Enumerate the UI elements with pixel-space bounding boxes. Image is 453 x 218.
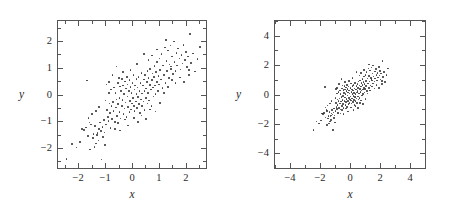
scatter-panel-right: y x −4−2024−4−2024 bbox=[226, 0, 453, 218]
minor-tick-y bbox=[58, 135, 61, 136]
data-point bbox=[167, 50, 169, 52]
data-point bbox=[83, 129, 85, 131]
data-point bbox=[183, 44, 185, 46]
data-point bbox=[352, 101, 354, 103]
minor-tick-x bbox=[335, 165, 336, 168]
data-point bbox=[341, 109, 343, 111]
major-tick-y bbox=[201, 68, 206, 69]
minor-tick-x bbox=[145, 21, 146, 24]
data-point bbox=[131, 92, 133, 94]
data-point bbox=[109, 112, 111, 114]
data-point bbox=[184, 59, 186, 61]
data-point bbox=[339, 90, 341, 92]
data-point bbox=[128, 90, 130, 92]
data-point bbox=[90, 124, 92, 126]
data-point bbox=[386, 74, 388, 76]
data-point bbox=[94, 146, 96, 148]
data-point bbox=[355, 105, 357, 107]
data-point bbox=[144, 74, 146, 76]
major-tick-y bbox=[275, 124, 280, 125]
major-tick-y bbox=[420, 153, 425, 154]
data-point bbox=[335, 97, 337, 99]
data-point bbox=[87, 135, 89, 137]
y-tick-label: 2 bbox=[248, 60, 269, 71]
major-tick-x bbox=[105, 163, 106, 168]
data-point bbox=[157, 90, 159, 92]
data-point bbox=[382, 76, 384, 78]
data-point bbox=[151, 105, 153, 107]
data-point bbox=[331, 109, 333, 111]
data-point bbox=[323, 112, 325, 114]
data-point bbox=[355, 93, 357, 95]
data-point bbox=[91, 113, 93, 115]
data-point bbox=[185, 51, 187, 53]
data-point bbox=[121, 78, 123, 80]
data-point bbox=[141, 105, 143, 107]
data-point bbox=[357, 83, 359, 85]
data-point bbox=[199, 46, 201, 48]
data-point bbox=[158, 84, 160, 86]
data-point bbox=[170, 45, 172, 47]
data-point bbox=[145, 118, 147, 120]
data-point bbox=[89, 149, 91, 151]
data-point bbox=[172, 73, 174, 75]
data-point bbox=[162, 87, 164, 89]
data-point bbox=[367, 93, 369, 95]
y-tick-label: 0 bbox=[31, 89, 52, 100]
data-point bbox=[148, 100, 150, 102]
data-point bbox=[353, 109, 355, 111]
data-point bbox=[159, 58, 161, 60]
data-point bbox=[365, 98, 367, 100]
data-point bbox=[123, 113, 125, 115]
data-point bbox=[173, 41, 175, 43]
data-point bbox=[341, 78, 343, 80]
data-point bbox=[351, 91, 353, 93]
data-point bbox=[126, 116, 128, 118]
data-point bbox=[180, 69, 182, 71]
y-tick-label: 0 bbox=[248, 89, 269, 100]
minor-tick-y bbox=[58, 161, 61, 162]
data-point bbox=[153, 76, 155, 78]
major-tick-x bbox=[186, 163, 187, 168]
data-point bbox=[140, 99, 142, 101]
y-tick-label: 2 bbox=[31, 36, 52, 47]
major-tick-x bbox=[350, 21, 351, 26]
data-point bbox=[362, 84, 364, 86]
major-tick-y bbox=[275, 95, 280, 96]
data-point bbox=[369, 90, 371, 92]
data-point bbox=[92, 137, 94, 139]
data-point bbox=[361, 90, 363, 92]
data-point bbox=[155, 71, 157, 73]
minor-tick-y bbox=[422, 80, 425, 81]
data-point bbox=[374, 71, 376, 73]
data-point bbox=[88, 117, 90, 119]
data-point bbox=[154, 65, 156, 67]
major-tick-y bbox=[420, 95, 425, 96]
data-point bbox=[129, 79, 131, 81]
minor-tick-y bbox=[422, 109, 425, 110]
data-point bbox=[369, 81, 371, 83]
data-point bbox=[127, 106, 129, 108]
x-tick-label: 0 bbox=[129, 173, 134, 184]
major-tick-y bbox=[58, 68, 63, 69]
data-point bbox=[179, 58, 181, 60]
data-point bbox=[134, 85, 136, 87]
data-point bbox=[139, 90, 141, 92]
data-point bbox=[66, 158, 68, 160]
data-point bbox=[102, 136, 104, 138]
y-tick-label: −1 bbox=[31, 116, 52, 127]
data-point bbox=[106, 109, 108, 111]
data-point bbox=[158, 75, 160, 77]
data-point bbox=[138, 76, 140, 78]
minor-tick-x bbox=[65, 21, 66, 24]
data-point bbox=[316, 121, 318, 123]
data-point bbox=[175, 70, 177, 72]
data-point bbox=[132, 82, 134, 84]
x-tick-label: −4 bbox=[284, 173, 295, 184]
data-point bbox=[156, 49, 158, 51]
data-point bbox=[387, 68, 389, 70]
data-point bbox=[122, 85, 124, 87]
data-point bbox=[352, 77, 354, 79]
data-point bbox=[338, 100, 340, 102]
major-tick-y bbox=[201, 148, 206, 149]
